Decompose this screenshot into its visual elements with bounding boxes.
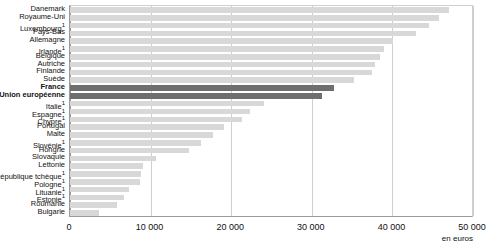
bar-lituanie[interactable] <box>70 187 129 193</box>
table-row <box>70 23 473 29</box>
table-row <box>70 54 473 60</box>
x-tick-label-50000: 50 000 <box>458 222 486 232</box>
table-row <box>70 101 473 107</box>
bar-irlande[interactable] <box>70 46 384 52</box>
bar-danemark[interactable] <box>70 7 449 13</box>
table-row <box>70 210 473 216</box>
footnote-marker: 1 <box>62 178 65 184</box>
axis-unit-label: en euros <box>442 234 473 243</box>
table-row <box>70 93 473 99</box>
x-tick-label-20000: 20 000 <box>216 222 244 232</box>
gridline-50000 <box>473 6 474 216</box>
table-row <box>70 46 473 52</box>
x-tick-label-10000: 10 000 <box>136 222 164 232</box>
value-axis: 010 00020 00030 00040 00050 000 <box>0 218 481 236</box>
category-label-union-europ-enne: Union européenne <box>0 91 65 99</box>
x-tick-label-0: 0 <box>66 222 71 232</box>
bar-chypre[interactable] <box>70 117 242 123</box>
table-row <box>70 171 473 177</box>
plot-area <box>69 5 473 217</box>
bar-pologne[interactable] <box>70 179 140 185</box>
table-row <box>70 156 473 162</box>
table-row <box>70 179 473 185</box>
table-row <box>70 31 473 37</box>
bar-union-europ-enne[interactable] <box>70 93 322 99</box>
table-row <box>70 15 473 21</box>
bar-espagne[interactable] <box>70 109 250 115</box>
bar-bulgarie[interactable] <box>70 210 99 216</box>
category-label-bulgarie: Bulgarie <box>37 208 65 216</box>
bar-portugal[interactable] <box>70 124 224 130</box>
table-row <box>70 148 473 154</box>
footnote-marker: 1 <box>62 100 65 106</box>
bar-finlande[interactable] <box>70 70 372 76</box>
footnote-marker: 1 <box>62 108 65 114</box>
table-row <box>70 195 473 201</box>
category-label-allemagne: Allemagne <box>30 36 65 44</box>
bar-slovaquie[interactable] <box>70 156 156 162</box>
bar-r-publique-tch-que[interactable] <box>70 171 141 177</box>
bar-su-de[interactable] <box>70 77 354 83</box>
bar-rows <box>70 6 472 216</box>
table-row <box>70 77 473 83</box>
table-row <box>70 85 473 91</box>
table-row <box>70 7 473 13</box>
table-row <box>70 38 473 44</box>
table-row <box>70 109 473 115</box>
footnote-marker: 1 <box>62 186 65 192</box>
bar-lettonie[interactable] <box>70 163 143 169</box>
table-row <box>70 163 473 169</box>
table-row <box>70 62 473 68</box>
table-row <box>70 202 473 208</box>
bar-malte[interactable] <box>70 132 213 138</box>
bar-allemagne[interactable] <box>70 38 393 44</box>
x-tick-label-30000: 30 000 <box>297 222 325 232</box>
bar-luxembourg[interactable] <box>70 23 429 29</box>
table-row <box>70 132 473 138</box>
footnote-marker: 1 <box>62 139 65 145</box>
table-row <box>70 187 473 193</box>
x-tick-label-40000: 40 000 <box>378 222 406 232</box>
table-row <box>70 140 473 146</box>
footnote-marker: 1 <box>62 170 65 176</box>
category-label-lettonie: Lettonie <box>38 161 65 169</box>
bar-autriche[interactable] <box>70 62 375 68</box>
category-axis-labels: DanemarkRoyaume-UniLuxembourg1Pays-BasAl… <box>0 5 67 217</box>
bar-pays-bas[interactable] <box>70 31 416 37</box>
category-label-royaume-uni: Royaume-Uni <box>19 13 65 21</box>
bar-italie[interactable] <box>70 101 264 107</box>
bar-royaume-uni[interactable] <box>70 15 439 21</box>
table-row <box>70 70 473 76</box>
category-label-malte: Malte <box>47 130 65 138</box>
bar-slov-nie[interactable] <box>70 140 201 146</box>
table-row <box>70 124 473 130</box>
table-row <box>70 117 473 123</box>
bar-hongrie[interactable] <box>70 148 189 154</box>
bar-belgique[interactable] <box>70 54 380 60</box>
bar-france[interactable] <box>70 85 334 91</box>
bar-roumanie[interactable] <box>70 202 117 208</box>
bar-estonie[interactable] <box>70 195 124 201</box>
